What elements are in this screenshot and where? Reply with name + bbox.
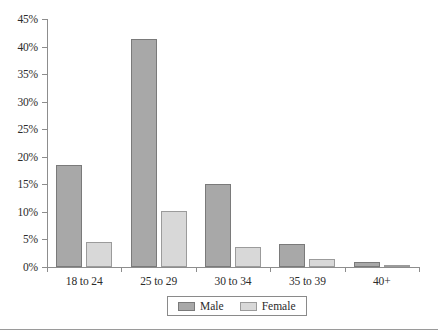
y-tick-mark <box>42 212 47 213</box>
legend-entry-female: Female <box>240 300 296 312</box>
bar-male-18-to-24 <box>56 165 82 267</box>
bar-female-30-to-34 <box>235 247 261 267</box>
y-tick-label: 10% <box>18 206 38 218</box>
x-tick-mark <box>121 267 122 272</box>
y-tick-mark <box>42 102 47 103</box>
chart-page: 0%5%10%15%20%25%30%35%40%45% 18 to 2425 … <box>0 0 438 336</box>
plot-area: 0%5%10%15%20%25%30%35%40%45% <box>47 19 419 267</box>
bar-female-25-to-29 <box>161 211 187 267</box>
x-tick-mark <box>196 267 197 272</box>
y-tick-label: 30% <box>18 96 38 108</box>
x-axis-label: 25 to 29 <box>140 275 177 287</box>
chart-legend: MaleFemale <box>167 296 307 316</box>
legend-label: Female <box>262 300 296 312</box>
y-tick-label: 20% <box>18 151 38 163</box>
bar-male-25-to-29 <box>131 39 157 267</box>
y-tick-label: 45% <box>18 13 38 25</box>
y-tick-mark <box>42 74 47 75</box>
bottom-divider <box>0 329 438 330</box>
x-tick-mark <box>419 267 420 272</box>
x-axis-label: 40+ <box>373 275 391 287</box>
legend-swatch-male <box>178 302 195 311</box>
legend-swatch-female <box>240 302 257 311</box>
bar-male-30-to-34 <box>205 184 231 267</box>
x-axis-line <box>47 267 419 268</box>
y-tick-mark <box>42 239 47 240</box>
x-axis-label: 30 to 34 <box>215 275 252 287</box>
x-tick-mark <box>270 267 271 272</box>
y-tick-label: 15% <box>18 178 38 190</box>
y-tick-label: 35% <box>18 68 38 80</box>
x-tick-mark <box>345 267 346 272</box>
y-tick-mark <box>42 157 47 158</box>
bar-female-35-to-39 <box>309 259 335 267</box>
y-tick-label: 25% <box>18 123 38 135</box>
y-tick-label: 0% <box>23 261 38 273</box>
bar-male-35-to-39 <box>279 244 305 267</box>
legend-entry-male: Male <box>178 300 224 312</box>
legend-label: Male <box>200 300 224 312</box>
bar-male-40plus <box>354 262 380 268</box>
x-tick-mark <box>47 267 48 272</box>
y-tick-label: 40% <box>18 41 38 53</box>
bar-female-18-to-24 <box>86 242 112 267</box>
x-axis-label: 35 to 39 <box>289 275 326 287</box>
y-tick-mark <box>42 19 47 20</box>
bar-female-40plus <box>384 265 410 267</box>
y-tick-mark <box>42 47 47 48</box>
y-tick-mark <box>42 129 47 130</box>
x-axis-label: 18 to 24 <box>66 275 103 287</box>
y-tick-mark <box>42 184 47 185</box>
y-tick-label: 5% <box>23 233 38 245</box>
